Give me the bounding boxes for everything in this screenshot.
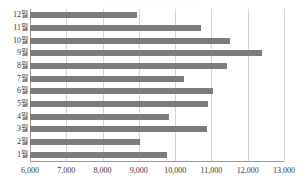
bar-row — [30, 110, 284, 123]
x-tick-label-10000: 10,000 — [164, 166, 186, 176]
clipped-header-text: · · ·· ·· ·· · ·· ·· · — [0, 0, 308, 5]
x-tick-label-12000: 12,000 — [237, 166, 259, 176]
bar-7월[interactable] — [30, 76, 184, 82]
y-tick-label-5월: 5월 — [17, 100, 28, 108]
bar-chart: · · ·· ·· ·· · ·· ·· · 12월11월10월9월8월7월6월… — [0, 0, 308, 183]
bar-rows — [30, 9, 284, 161]
bar-row — [30, 22, 284, 35]
gridline-13000 — [284, 9, 285, 161]
y-tick-label-4월: 4월 — [17, 113, 28, 121]
y-tick-label-3월: 3월 — [17, 125, 28, 133]
bar-3월[interactable] — [30, 126, 207, 132]
bar-row — [30, 47, 284, 60]
plot-area — [30, 9, 284, 161]
y-tick-label-10월: 10월 — [13, 37, 28, 45]
y-tick-label-12월: 12월 — [13, 11, 28, 19]
x-tick-label-8000: 8,000 — [94, 166, 112, 176]
bar-11월[interactable] — [30, 25, 201, 31]
bar-row — [30, 85, 284, 98]
x-tick-label-13000: 13,000 — [273, 166, 295, 176]
y-tick-label-9월: 9월 — [17, 49, 28, 57]
bar-12월[interactable] — [30, 12, 137, 18]
y-tick-label-7월: 7월 — [17, 75, 28, 83]
bar-8월[interactable] — [30, 63, 227, 69]
x-tick-label-11000: 11,000 — [201, 166, 223, 176]
bar-5월[interactable] — [30, 101, 208, 107]
y-tick-label-1월: 1월 — [17, 151, 28, 159]
bar-row — [30, 98, 284, 111]
bar-row — [30, 148, 284, 161]
bar-1월[interactable] — [30, 152, 167, 158]
x-axis-line — [30, 161, 284, 162]
bar-row — [30, 60, 284, 73]
y-tick-label-8월: 8월 — [17, 62, 28, 70]
y-tick-label-11월: 11월 — [13, 24, 28, 32]
bar-2월[interactable] — [30, 139, 140, 145]
bar-9월[interactable] — [30, 50, 262, 56]
bar-6월[interactable] — [30, 88, 213, 94]
bar-10월[interactable] — [30, 38, 230, 44]
bar-4월[interactable] — [30, 114, 169, 120]
x-tick-label-7000: 7,000 — [57, 166, 75, 176]
bar-row — [30, 136, 284, 149]
y-tick-label-2월: 2월 — [17, 138, 28, 146]
bar-row — [30, 123, 284, 136]
x-axis-labels: 6,0007,0008,0009,00010,00011,00012,00013… — [0, 166, 308, 180]
y-tick-label-6월: 6월 — [17, 87, 28, 95]
bar-row — [30, 34, 284, 47]
bar-row — [30, 72, 284, 85]
bar-row — [30, 9, 284, 22]
x-tick-label-6000: 6,000 — [21, 166, 39, 176]
y-axis-labels: 12월11월10월9월8월7월6월5월4월3월2월1월 — [0, 9, 28, 161]
x-tick-label-9000: 9,000 — [130, 166, 148, 176]
